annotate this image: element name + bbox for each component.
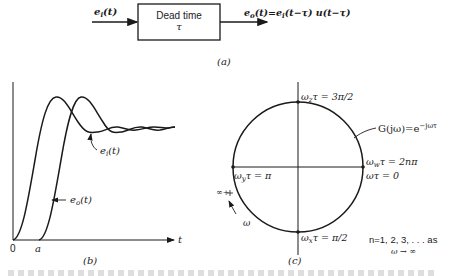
block-title: Dead time [138,10,220,21]
left-point-label: ωyτ = π [234,171,271,184]
block-param: τ [138,21,220,32]
top-point-label: ωzτ = 3π/2 [301,92,353,105]
right-point-label-2: ωτ = 0 [366,171,399,181]
point-bottom [296,230,300,234]
x-axis-label: t [178,235,182,245]
output-expr: (t)=e [255,7,282,18]
infinity-label: ∞+ [216,188,229,198]
right-point-label-1: ωwτ = 2nπ [366,157,417,170]
curve-output-eo [39,97,175,240]
bottom-rest: τ = π/2 [313,232,348,243]
top-rest: τ = 3π/2 [312,91,353,102]
curve-input-label: ei(t) [100,146,120,159]
panel-b-time-plot [13,82,175,240]
input-signal-label: ei(t) [94,7,117,20]
left-rest: τ = π [246,170,272,181]
input-signal-arg: (t) [103,6,117,17]
output-signal-label: eo(t)=ei(t−τ) u(t−τ) [244,8,350,21]
direction-arrow-icon [229,201,236,214]
dead-time-block-text: Dead time τ [138,10,220,32]
origin-label: 0 [10,244,16,254]
transfer-fn-base: G(jω)=e [378,123,419,134]
point-top [296,100,300,104]
panel-c-polar-plot [227,82,376,255]
ei-arg: (t) [108,145,120,156]
transfer-fn-label: G(jω)=e−jωτ [378,121,437,134]
note-line-1: n=1, 2, 3, . . . as [369,235,437,245]
curve-input-ei [13,97,175,240]
eo-arg: (t) [80,194,92,205]
leader-transfer-fn [354,128,376,138]
top-omega: ω [301,91,309,102]
right-omega: ω [366,156,374,167]
point-right [361,165,365,169]
transfer-fn-exp: −jωτ [419,122,437,130]
note-line-2: ω → ∞ [391,247,416,257]
point-left [231,165,235,169]
curve-output-label: eo(t) [70,195,92,208]
right-rest: τ = 2nπ [380,156,418,167]
output-expr-rest: (t−τ) u(t−τ) [285,7,351,18]
panel-b-label: (b) [83,256,97,266]
direction-label: ω [243,218,250,228]
delay-label: a [35,244,41,254]
figure-caption-cropped [8,270,448,276]
left-omega: ω [234,170,242,181]
panel-c-label: (c) [288,256,301,266]
panel-a-label: (a) [217,57,231,67]
leader-ei [91,134,97,150]
caption-fragment [8,270,438,276]
bottom-omega: ω [301,232,309,243]
bottom-point-label: ωxτ = π/2 [301,233,347,246]
